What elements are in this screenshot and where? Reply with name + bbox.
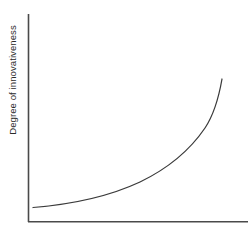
plot-area — [0, 0, 250, 232]
chart-figure: Degree of innovativeness — [0, 0, 250, 232]
innovativeness-curve — [33, 79, 222, 208]
